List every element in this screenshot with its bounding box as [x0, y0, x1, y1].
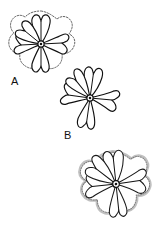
flower-b [57, 64, 123, 133]
flower-illustration: A B [0, 0, 156, 227]
flower-a-center-dot [40, 43, 43, 46]
flower-label-a: A [11, 75, 19, 87]
figure-canvas: A B [0, 0, 156, 227]
petal [107, 183, 128, 217]
flower-label-b: B [64, 129, 71, 141]
flower-c [77, 147, 153, 220]
flower-a [9, 11, 75, 72]
